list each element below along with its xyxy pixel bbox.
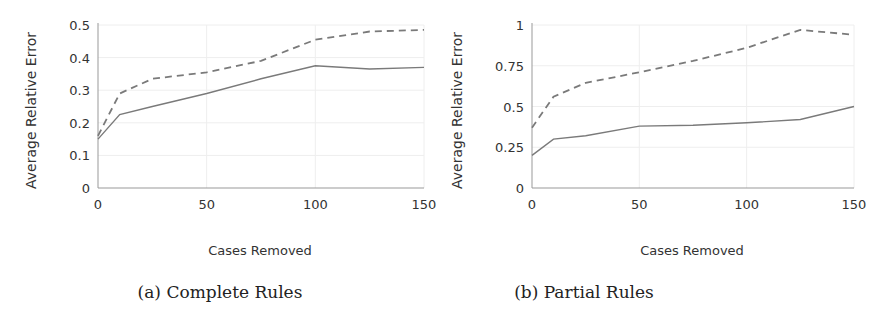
- x-tick-label: 0: [528, 197, 536, 212]
- chart-complete-rules: 00.10.20.30.40.5050100150Average Relativ…: [0, 0, 446, 240]
- y-tick-label: 0.2: [69, 116, 90, 131]
- y-tick-label: 0.4: [69, 51, 90, 66]
- series-line-solid: [532, 107, 854, 156]
- y-tick-label: 0.5: [69, 18, 90, 33]
- x-tick-label: 50: [631, 197, 648, 212]
- y-tick-label: 0.25: [495, 140, 524, 155]
- chart-panel-a: 00.10.20.30.40.5050100150Average Relativ…: [0, 0, 446, 336]
- series-line-dashed: [532, 30, 854, 128]
- y-axis-label: Average Relative Error: [449, 32, 465, 189]
- y-tick-label: 0: [516, 181, 524, 196]
- series-line-dashed: [98, 30, 424, 136]
- figure-caption-a: (a) Complete Rules: [70, 282, 370, 302]
- x-tick-label: 100: [303, 197, 328, 212]
- x-tick-label: 150: [842, 197, 867, 212]
- figure-caption-b: (b) Partial Rules: [434, 282, 734, 302]
- series-line-solid: [98, 66, 424, 139]
- chart-partial-rules: 00.250.50.751050100150Average Relative E…: [446, 0, 892, 240]
- x-tick-label: 0: [94, 197, 102, 212]
- y-axis-label: Average Relative Error: [23, 32, 39, 189]
- y-tick-label: 0.5: [503, 100, 524, 115]
- y-tick-label: 0: [82, 181, 90, 196]
- x-axis-label: Cases Removed: [160, 243, 360, 258]
- x-tick-label: 150: [412, 197, 437, 212]
- y-tick-label: 0.75: [495, 59, 524, 74]
- x-axis-label: Cases Removed: [592, 243, 792, 258]
- x-tick-label: 50: [198, 197, 215, 212]
- chart-panel-b: 00.250.50.751050100150Average Relative E…: [446, 0, 892, 336]
- y-tick-label: 1: [516, 18, 524, 33]
- y-tick-label: 0.3: [69, 83, 90, 98]
- x-tick-label: 100: [734, 197, 759, 212]
- y-tick-label: 0.1: [69, 148, 90, 163]
